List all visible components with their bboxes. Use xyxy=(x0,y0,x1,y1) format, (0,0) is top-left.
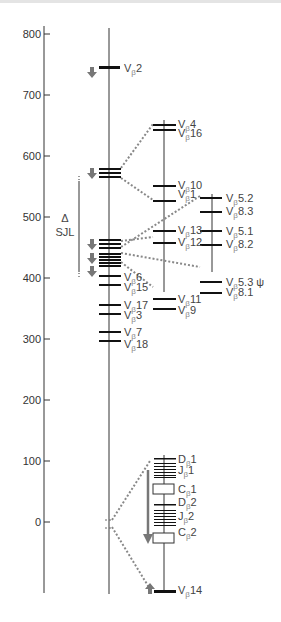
expansion2-gene-bars xyxy=(200,197,222,294)
gene-label: Jβ2 xyxy=(178,510,194,525)
sjl-deletion-bracket: Δ SJL xyxy=(56,176,79,278)
scale-axis: 8007006005004003002001000 xyxy=(23,26,50,593)
gene-label: Vβ8.2 xyxy=(226,238,253,253)
gene-labels: Vβ2Vβ6Vβ15Vβ17Vβ3Vβ7Vβ18Vβ4Vβ16Vβ10Vβ1Vβ… xyxy=(124,62,264,599)
sjl-label: SJL xyxy=(56,226,75,238)
axis-tick-label: 700 xyxy=(23,89,41,101)
axis-tick-label: 0 xyxy=(35,516,41,528)
delta-symbol: Δ xyxy=(61,212,69,224)
c-beta-1-box xyxy=(153,484,174,494)
gene-label: Dβ2 xyxy=(178,496,197,511)
axis-tick-label: 200 xyxy=(23,394,41,406)
gene-label: Vβ2 xyxy=(124,62,142,77)
gene-label: Cβ2 xyxy=(178,526,197,541)
transcription-arrowhead xyxy=(143,534,153,544)
axis-tick-label: 500 xyxy=(23,211,41,223)
gene-label: Vβ14 xyxy=(178,584,202,599)
gene-label: Vβ12 xyxy=(178,236,202,251)
axis-tick-label: 600 xyxy=(23,150,41,162)
c-beta-2-box xyxy=(153,533,174,543)
orientation-arrows xyxy=(87,67,155,594)
gene-label: Vβ8.1 xyxy=(226,286,253,301)
axis-tick-label: 100 xyxy=(23,455,41,467)
gene-label: Vβ8.3 xyxy=(226,205,253,220)
axis-tick-label: 300 xyxy=(23,333,41,345)
tcr-beta-locus-map: 8007006005004003002001000 Δ SJL xyxy=(0,0,281,622)
gene-label: Vβ15 xyxy=(124,281,148,296)
gene-label: Vβ18 xyxy=(124,338,148,353)
axis-tick-label: 800 xyxy=(23,28,41,40)
axis-tick-label: 400 xyxy=(23,272,41,284)
gene-label: Vβ16 xyxy=(178,127,202,142)
